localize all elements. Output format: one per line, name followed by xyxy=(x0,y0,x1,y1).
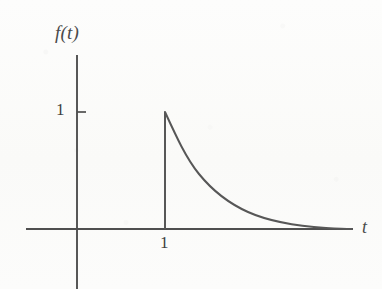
x-axis-label: t xyxy=(362,217,367,238)
figure-root: f(t) t 1 1 xyxy=(0,0,382,289)
x-axis-tick-label-1: 1 xyxy=(160,233,169,253)
y-axis-tick-label-1: 1 xyxy=(56,100,65,120)
y-axis-label: f(t) xyxy=(55,22,79,44)
exponential-decay-curve xyxy=(165,112,352,229)
